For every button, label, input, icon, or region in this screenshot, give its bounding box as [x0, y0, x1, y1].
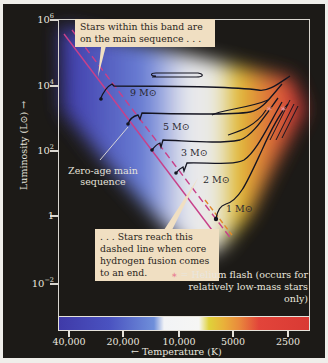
temperature-color-bar [58, 316, 310, 331]
track-label-9msun: 9 M⊙ [130, 87, 157, 98]
main-sequence-callout: Stars within this band are on the main s… [75, 19, 215, 47]
x-tick-label: 40,000 [52, 336, 85, 347]
y-tick-label: 106 [37, 12, 54, 24]
helium-flash-markers: ∗ ∗ [266, 103, 289, 114]
y-tick-label: 1 [48, 208, 54, 220]
track-label-1msun: 1 M⊙ [226, 203, 253, 214]
track-label-5msun: 5 M⊙ [163, 121, 190, 132]
helium-flash-legend: ∗ = Helium flash (occurs for relatively … [168, 269, 308, 305]
x-axis-title: ← Temperature (K) [131, 346, 222, 357]
track-label-3msun: 3 M⊙ [181, 147, 208, 158]
y-axis-title: Luminosity (L⊙) → [18, 101, 29, 190]
zams-label: Zero-age main sequence [68, 165, 138, 187]
track-label-2msun: 2 M⊙ [203, 174, 230, 185]
y-tick-label: 104 [37, 78, 54, 90]
x-tick-label: 5000 [221, 336, 245, 347]
x-tick-label: 2500 [276, 336, 300, 347]
y-tick-label: 10−2 [32, 276, 54, 288]
y-tick-label: 102 [37, 143, 54, 155]
